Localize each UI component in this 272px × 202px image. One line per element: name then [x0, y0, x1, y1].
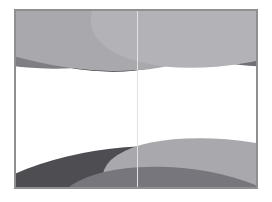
- framed-panel: [14, 9, 258, 189]
- center-divider-line: [137, 10, 138, 188]
- image-canvas: [0, 0, 272, 202]
- artwork-clip-region: [15, 10, 257, 188]
